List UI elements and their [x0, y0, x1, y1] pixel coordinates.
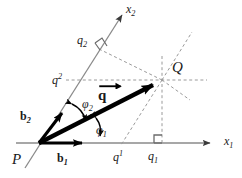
label-vector-q: q — [98, 88, 106, 103]
vector-decomposition-figure: P Q x1 x2 b2 b1 q φ2 φ1 q2 q2 q1 q1 — [0, 0, 242, 178]
label-covariant-q1: q1 — [148, 150, 158, 166]
vector-q-symbol: q — [98, 88, 106, 103]
label-axis-x1: x1 — [224, 135, 233, 151]
label-angle-phi1: φ1 — [96, 124, 107, 140]
label-covariant-q2: q2 — [77, 34, 87, 50]
label-contravariant-q2: q2 — [52, 73, 62, 86]
label-basis-b2: b2 — [20, 110, 31, 126]
axis-x2 — [25, 15, 122, 168]
label-angle-phi2: φ2 — [82, 98, 93, 114]
right-angle-marker-x1 — [154, 135, 162, 143]
label-point-q-text: Q — [172, 59, 183, 75]
label-axis-x2: x2 — [126, 3, 135, 19]
projection-line-extension-lower — [162, 80, 190, 100]
label-point-q: Q — [172, 60, 183, 75]
label-contravariant-q1: q1 — [113, 150, 123, 163]
label-origin-p: P — [12, 152, 21, 167]
projection-line-covariant-x2 — [99, 49, 162, 80]
label-basis-b1: b1 — [57, 152, 68, 168]
